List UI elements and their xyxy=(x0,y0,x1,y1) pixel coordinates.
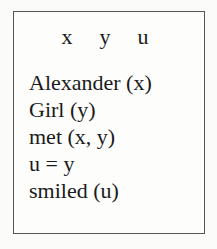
referent-x: x xyxy=(62,24,73,50)
referent-u: u xyxy=(138,24,149,50)
condition-alexander: Alexander (x) xyxy=(29,69,152,96)
referent-y: y xyxy=(100,24,111,50)
condition-girl: Girl (y) xyxy=(29,96,152,123)
condition-smiled: smiled (u) xyxy=(29,177,152,204)
drs-box: x y u Alexander (x) Girl (y) met (x, y) … xyxy=(13,11,205,234)
condition-equality: u = y xyxy=(29,150,152,177)
drs-conditions: Alexander (x) Girl (y) met (x, y) u = y … xyxy=(29,69,152,204)
condition-met: met (x, y) xyxy=(29,123,152,150)
discourse-referents: x y u xyxy=(14,24,204,50)
